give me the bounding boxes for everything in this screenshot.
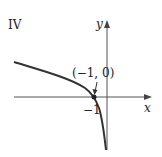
point-minus1-0 bbox=[92, 95, 97, 100]
arrowhead-icon bbox=[93, 89, 98, 95]
x-axis-label: x bbox=[144, 101, 151, 115]
point-label: (−1, 0) bbox=[72, 66, 114, 80]
y-axis-arrow-icon bbox=[104, 20, 110, 28]
x-axis-arrow-icon bbox=[144, 94, 152, 100]
graph: IV y x (−1, 0) −1 bbox=[0, 0, 162, 157]
y-axis-label: y bbox=[95, 17, 103, 31]
panel-label: IV bbox=[8, 18, 22, 32]
tick-label-minus1: −1 bbox=[83, 103, 101, 117]
